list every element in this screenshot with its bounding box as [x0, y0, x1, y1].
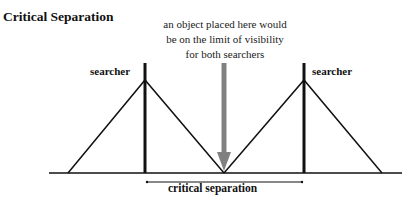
separation-end-left — [146, 181, 148, 183]
separation-end-right — [301, 181, 303, 183]
diagram-canvas — [0, 0, 417, 208]
